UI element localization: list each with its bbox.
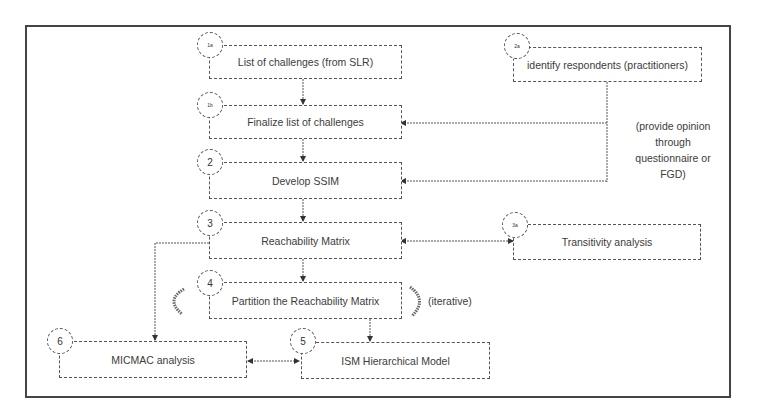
node-reachability-matrix: Reachability Matrix <box>209 222 402 259</box>
node-list-of-challenges: List of challenges (from SLR) <box>209 45 402 79</box>
step-badge: 2a <box>504 33 530 59</box>
step-badge: 1b <box>197 92 223 118</box>
step-badge: 6 <box>47 328 73 354</box>
node-label: Develop SSIM <box>272 175 339 187</box>
node-label: identify respondents (practitioners) <box>527 59 688 71</box>
step-badge: 2 <box>197 149 223 175</box>
node-label: Reachability Matrix <box>261 235 350 247</box>
node-identify-respondents: identify respondents (practitioners) <box>513 47 702 82</box>
node-transitivity-analysis: Transitivity analysis <box>513 224 701 260</box>
note-iterative: (iterative) <box>428 293 472 309</box>
node-label: MICMAC analysis <box>111 354 194 366</box>
node-label: ISM Hierarchical Model <box>341 355 450 367</box>
node-ism-model: ISM Hierarchical Model <box>301 342 490 379</box>
node-label: Partition the Reachability Matrix <box>232 295 380 307</box>
node-label: Finalize list of challenges <box>247 116 364 128</box>
node-label: List of challenges (from SLR) <box>238 56 373 68</box>
node-partition-matrix: Partition the Reachability Matrix <box>209 282 402 319</box>
step-badge: 5 <box>290 328 316 354</box>
node-develop-ssim: Develop SSIM <box>209 162 402 199</box>
step-badge: 3 <box>197 210 223 236</box>
step-badge: 1a <box>197 32 223 58</box>
node-label: Transitivity analysis <box>562 236 653 248</box>
node-micmac-analysis: MICMAC analysis <box>59 341 247 378</box>
step-badge: 3a <box>502 212 528 238</box>
node-finalize-list: Finalize list of challenges <box>209 105 402 139</box>
note-provide-opinion: (provide opinion through questionnaire o… <box>618 118 728 182</box>
step-badge: 4 <box>197 270 223 296</box>
